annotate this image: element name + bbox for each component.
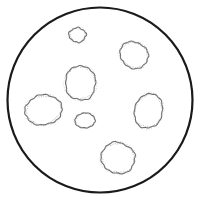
- petri-dish-figure: [0, 0, 201, 201]
- figure-canvas: [0, 0, 201, 201]
